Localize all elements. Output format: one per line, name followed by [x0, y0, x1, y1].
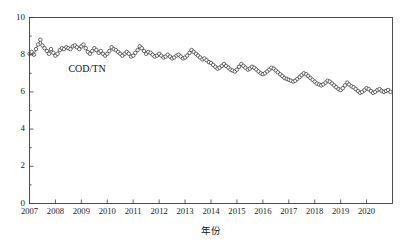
- x-tick-label: 2019: [332, 206, 349, 216]
- x-tick-label: 2009: [73, 206, 90, 216]
- series-marker: [49, 47, 53, 51]
- x-tick-label: 2015: [228, 206, 245, 216]
- x-tick-label: 2017: [280, 206, 298, 216]
- series-label-cod-tn: COD/TN: [68, 63, 105, 74]
- x-tick-label: 2012: [151, 206, 168, 216]
- x-tick-label: 2016: [254, 206, 272, 216]
- y-tick-label: 10: [16, 12, 26, 22]
- x-tick-label: 2013: [176, 206, 193, 216]
- x-axis-title: 年份: [201, 225, 221, 236]
- series-marker: [108, 49, 112, 53]
- y-tick-label: 6: [21, 86, 26, 96]
- x-tick-label: 2018: [306, 206, 323, 216]
- x-tick-label: 2007: [21, 206, 39, 216]
- x-tick-label: 2011: [125, 206, 142, 216]
- x-tick-label: 2010: [99, 206, 116, 216]
- x-tick-label: 2008: [47, 206, 64, 216]
- y-tick-label: 2: [21, 160, 26, 170]
- x-axis-ticks: [30, 200, 367, 204]
- x-tick-label: 2014: [202, 206, 220, 216]
- series-annotations: COD/TN: [68, 63, 105, 74]
- chart-plot-area: 0246810 20072008200920102011201220132014…: [0, 0, 408, 245]
- y-tick-label: 4: [21, 123, 26, 133]
- x-tick-label: 2020: [358, 206, 375, 216]
- y-axis-ticks: [30, 18, 34, 204]
- series-marker: [56, 52, 60, 56]
- series-marker: [39, 38, 43, 42]
- x-axis-tick-labels: 2007200820092010201120122013201420152016…: [21, 206, 375, 216]
- series-marker: [389, 90, 393, 94]
- series-marker: [136, 48, 140, 52]
- figure-container: 0246810 20072008200920102011201220132014…: [0, 0, 408, 245]
- series-marker: [82, 43, 86, 47]
- series-marker: [36, 43, 40, 47]
- series-marker: [34, 47, 38, 51]
- y-tick-label: 8: [21, 49, 26, 59]
- series-marker: [84, 46, 88, 50]
- y-axis-tick-labels: 0246810: [16, 12, 26, 208]
- series-marker: [47, 52, 51, 56]
